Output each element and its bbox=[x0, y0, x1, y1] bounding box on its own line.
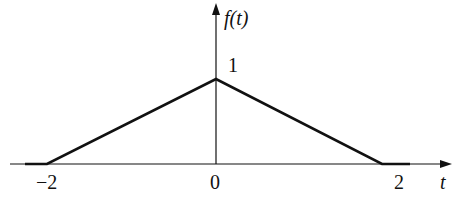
y-axis-arrow-icon bbox=[212, 3, 220, 15]
x-axis-arrow-icon bbox=[440, 160, 452, 168]
y-axis-label: f(t) bbox=[224, 7, 249, 30]
peak-label: 1 bbox=[228, 54, 238, 76]
tick-label-neg2: −2 bbox=[36, 171, 57, 193]
function-line bbox=[25, 79, 410, 164]
tick-label-2: 2 bbox=[394, 171, 404, 193]
triangle-pulse-chart: f(t) 1 −2 0 2 t bbox=[0, 0, 452, 220]
tick-label-0: 0 bbox=[210, 171, 220, 193]
x-axis-label: t bbox=[440, 171, 446, 193]
